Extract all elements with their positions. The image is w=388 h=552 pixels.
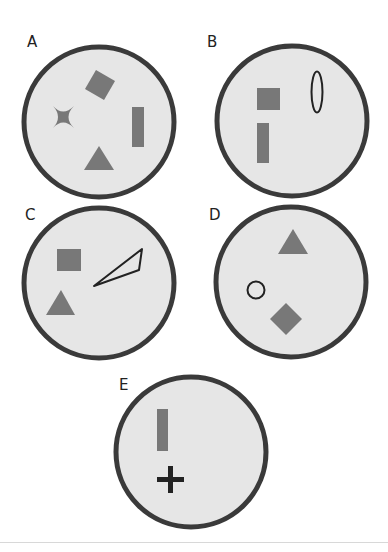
panel-d: D <box>209 206 366 357</box>
panel-circle-a <box>24 47 174 197</box>
vertical-rectangle-shape <box>132 107 144 147</box>
panel-label-c: C <box>25 206 35 224</box>
panel-c: C <box>24 206 174 358</box>
panel-circle-b <box>217 46 367 196</box>
panel-circle-e <box>116 377 266 527</box>
panel-label-b: B <box>207 33 217 51</box>
panel-circle-d <box>216 207 366 357</box>
panel-label-a: A <box>27 33 38 51</box>
square-shape <box>57 249 81 271</box>
shape-panels-diagram: A B C D E <box>0 0 388 552</box>
panel-label-d: D <box>209 206 221 224</box>
vertical-rectangle-shape <box>157 409 168 451</box>
square-shape <box>257 88 280 110</box>
panel-a: A <box>24 33 174 197</box>
panel-b: B <box>207 33 367 196</box>
panel-e: E <box>116 376 266 527</box>
panel-label-e: E <box>119 376 128 394</box>
vertical-rectangle-shape <box>257 123 269 163</box>
